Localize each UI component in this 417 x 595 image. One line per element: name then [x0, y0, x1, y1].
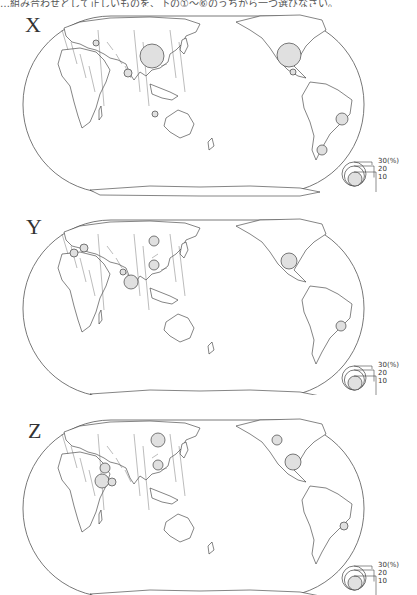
landmass	[236, 419, 326, 482]
legend-label: 20	[378, 165, 387, 173]
landmass	[150, 488, 178, 504]
proportional-circle-russia	[149, 236, 159, 246]
map-panel-y: Y 30(%)2010	[0, 200, 417, 395]
map-panel-x: X 30(%)2010	[0, 10, 417, 205]
proportional-circle-canada	[272, 435, 282, 445]
legend-label: 10	[378, 173, 387, 181]
legend-label: 20	[378, 369, 387, 377]
proportional-circle-ukraine	[93, 40, 99, 46]
landmass	[236, 219, 326, 282]
proportional-circle-egypt	[95, 474, 109, 488]
legend-circle	[348, 172, 362, 186]
proportional-circle-mexico	[290, 69, 296, 75]
proportional-circle-pakistan	[120, 269, 126, 275]
landmass	[150, 84, 178, 100]
proportional-circle-china	[140, 44, 164, 68]
world-map: 30(%)2010	[0, 10, 417, 205]
size-legend: 30(%)2010	[342, 157, 399, 192]
size-legend: 30(%)2010	[342, 361, 399, 395]
question-caption: …組み合わせとして正しいものを、下の①～⑥のうちから一つ選びなさい。	[0, 0, 417, 7]
legend-label: 30(%)	[378, 561, 399, 569]
proportional-circle-china	[149, 260, 159, 270]
landmass	[208, 138, 214, 150]
map-panel-z: Z 30(%)2010	[0, 400, 417, 595]
proportional-circle-germany	[80, 244, 88, 252]
proportional-circle-brazil	[336, 321, 346, 331]
landmass	[99, 510, 102, 524]
proportional-circle-indonesia	[152, 111, 158, 117]
proportional-circle-united-states	[285, 454, 301, 470]
proportional-circle-brazil	[340, 522, 348, 530]
legend-label: 20	[378, 569, 387, 577]
landmass	[208, 342, 214, 354]
world-map: 30(%)2010	[0, 400, 417, 595]
world-map: 30(%)2010	[0, 200, 417, 395]
landmass	[208, 542, 214, 554]
landmass	[150, 288, 178, 304]
proportional-circle-united-states	[277, 43, 301, 67]
proportional-circle-brazil	[336, 113, 348, 125]
landmass	[164, 514, 194, 542]
proportional-circle-china	[153, 460, 163, 470]
landmass	[90, 186, 320, 196]
proportional-circle-united-states	[281, 253, 297, 269]
landmass	[90, 590, 320, 595]
proportional-circle-india	[124, 275, 138, 289]
landmass	[164, 314, 194, 342]
proportional-circle-russia	[151, 433, 165, 447]
size-legend: 30(%)2010	[342, 561, 399, 595]
legend-label: 30(%)	[378, 361, 399, 369]
proportional-circle-india	[124, 69, 132, 77]
legend-label: 10	[378, 377, 387, 385]
landmass	[99, 310, 102, 324]
legend-circle	[348, 576, 362, 590]
legend-label: 30(%)	[378, 157, 399, 165]
landmass	[164, 110, 194, 138]
proportional-circle-france	[70, 249, 78, 257]
proportional-circle-saudi-arabia	[108, 478, 116, 486]
proportional-circle-turkey	[100, 463, 110, 473]
legend-circle	[348, 376, 362, 390]
landmass	[90, 390, 320, 395]
legend-label: 10	[378, 577, 387, 585]
landmass	[99, 106, 102, 120]
proportional-circle-argentina	[317, 145, 327, 155]
